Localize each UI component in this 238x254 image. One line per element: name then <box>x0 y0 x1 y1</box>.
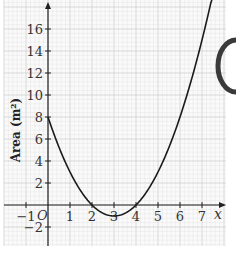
area-chart: −11234567−2246810121416 Area (m²) x O <box>0 0 238 254</box>
svg-text:10: 10 <box>26 88 43 103</box>
svg-text:1: 1 <box>66 209 74 224</box>
y-axis-label: Area (m²) <box>9 98 23 164</box>
svg-text:2: 2 <box>35 176 43 191</box>
svg-text:12: 12 <box>26 66 43 81</box>
svg-text:7: 7 <box>198 209 206 224</box>
svg-text:5: 5 <box>154 209 162 224</box>
svg-text:14: 14 <box>26 44 43 59</box>
x-axis-label: x <box>214 206 222 222</box>
svg-text:4: 4 <box>132 209 140 224</box>
svg-text:6: 6 <box>176 209 184 224</box>
svg-text:2: 2 <box>88 209 96 224</box>
svg-text:6: 6 <box>35 132 43 147</box>
svg-text:4: 4 <box>35 154 43 169</box>
svg-text:8: 8 <box>35 110 43 125</box>
origin-label: O <box>37 208 48 223</box>
svg-text:16: 16 <box>26 22 43 37</box>
